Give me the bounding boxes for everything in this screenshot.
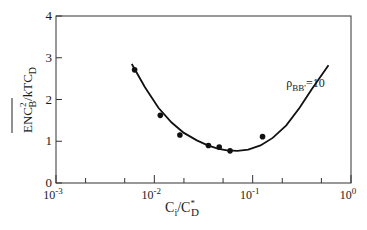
fit-curve xyxy=(132,64,329,151)
y-axis-label: ENC2B/kTCD xyxy=(12,67,38,133)
x-tick-label: 100 xyxy=(340,186,357,202)
data-point xyxy=(132,67,138,73)
y-tick-label: 1 xyxy=(46,133,53,148)
curve-annotation: ρBB'=10 xyxy=(286,76,324,93)
y-axis-ticks: 01234 xyxy=(46,8,63,190)
chart: 10-310-210-1100 01234 ρBB'=10 Ci/C*D ENC… xyxy=(0,0,367,230)
svg-text:Ci/C*D: Ci/C*D xyxy=(165,198,199,218)
y-tick-label: 4 xyxy=(46,8,53,23)
data-point xyxy=(158,113,164,119)
svg-text:ENC2B/kTCD: ENC2B/kTCD xyxy=(18,67,38,133)
data-point xyxy=(227,148,233,154)
data-point xyxy=(206,143,212,149)
x-tick-label: 10-2 xyxy=(142,186,162,202)
y-tick-label: 0 xyxy=(46,175,53,190)
plot-frame xyxy=(56,16,351,183)
y-tick-label: 3 xyxy=(46,50,53,65)
x-tick-label: 10-1 xyxy=(240,186,260,202)
data-point xyxy=(177,132,183,138)
x-axis-ticks: 10-310-210-1100 xyxy=(43,175,357,202)
x-axis-label: Ci/C*D xyxy=(165,198,199,218)
data-point xyxy=(216,144,222,150)
data-point xyxy=(260,134,266,140)
y-tick-label: 2 xyxy=(46,92,53,107)
